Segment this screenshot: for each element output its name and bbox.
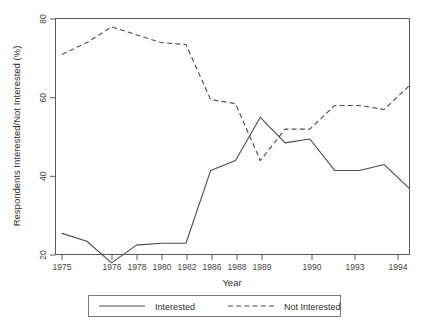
y-tick-label-20: 20 bbox=[38, 250, 48, 260]
line-chart-canvas: 20 40 60 80 Respondents Interested/Not I… bbox=[0, 0, 425, 324]
y-tick-label-80: 80 bbox=[38, 14, 48, 24]
x-tick-label-1990: 1990 bbox=[303, 262, 322, 272]
plot-frame bbox=[56, 19, 410, 255]
y-tick-label-60: 60 bbox=[38, 93, 48, 103]
x-tick-label-1982: 1982 bbox=[178, 262, 197, 272]
legend-label-interested: Interested bbox=[155, 302, 195, 312]
y-axis-title: Respondents Interested/Not Interested (%… bbox=[11, 46, 22, 227]
x-tick-label-1978: 1978 bbox=[128, 262, 147, 272]
x-tick-label-1976: 1976 bbox=[103, 262, 122, 272]
x-axis-title: Year bbox=[222, 277, 241, 288]
y-axis: 20 40 60 80 bbox=[38, 14, 55, 260]
x-tick-label-1994: 1994 bbox=[389, 262, 408, 272]
chart-legend: Interested Not Interested bbox=[89, 296, 341, 317]
x-tick-label-1986: 1986 bbox=[203, 262, 222, 272]
series-line-interested bbox=[62, 117, 409, 263]
legend-label-not-interested: Not Interested bbox=[284, 302, 341, 312]
series-line-not-interested bbox=[62, 27, 409, 161]
chart-figure: 20 40 60 80 Respondents Interested/Not I… bbox=[0, 0, 425, 324]
x-tick-label-1989: 1989 bbox=[253, 262, 272, 272]
x-tick-label-1988: 1988 bbox=[228, 262, 247, 272]
x-tick-label-1993: 1993 bbox=[346, 262, 365, 272]
x-tick-label-1975: 1975 bbox=[53, 262, 72, 272]
y-tick-label-40: 40 bbox=[38, 171, 48, 181]
x-tick-label-1980: 1980 bbox=[153, 262, 172, 272]
